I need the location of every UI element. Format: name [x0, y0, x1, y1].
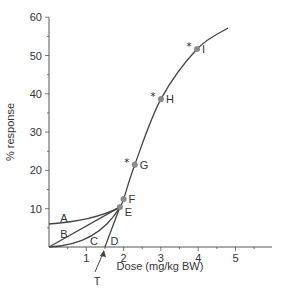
y-tick-label: 20: [30, 164, 42, 176]
x-axis-title: Dose (mg/kg BW): [117, 260, 204, 272]
y-axis-title: % response: [4, 103, 16, 161]
data-points: EFG*H*I*: [117, 41, 205, 218]
y-tick-label: 60: [30, 11, 42, 23]
star-marker: *: [187, 41, 192, 52]
curve-label-d: D: [111, 235, 119, 247]
point-label-e: E: [125, 206, 132, 218]
point-label-h: H: [166, 93, 174, 105]
point-h: [158, 96, 164, 102]
annotations: [95, 250, 106, 272]
point-i: [194, 46, 200, 52]
point-label-i: I: [202, 43, 205, 55]
star-marker: *: [124, 157, 129, 168]
y-tick-label: 40: [30, 88, 42, 100]
point-label-g: G: [140, 159, 149, 171]
main-curve: [120, 28, 228, 207]
threshold-arrow-head: [100, 250, 106, 257]
curves: ABCD: [49, 28, 228, 247]
axis-ticks: 10203040506012345: [30, 11, 254, 264]
x-tick-label: 1: [83, 252, 89, 264]
threshold-label: T: [94, 275, 101, 287]
y-tick-label: 30: [30, 126, 42, 138]
point-e: [117, 204, 123, 210]
x-tick-label: 5: [232, 252, 238, 264]
dose-response-chart: 10203040506012345 ABCD EFG*H*I* Dose (mg…: [0, 0, 285, 290]
point-f: [121, 196, 127, 202]
y-tick-label: 10: [30, 203, 42, 215]
star-marker: *: [150, 91, 155, 102]
y-tick-label: 50: [30, 50, 42, 62]
axes: [49, 17, 272, 247]
curve-label-a: A: [60, 212, 68, 224]
point-g: [132, 162, 138, 168]
curve-label-c: C: [90, 235, 98, 247]
curve-label-b: B: [60, 228, 67, 240]
point-label-f: F: [129, 193, 136, 205]
